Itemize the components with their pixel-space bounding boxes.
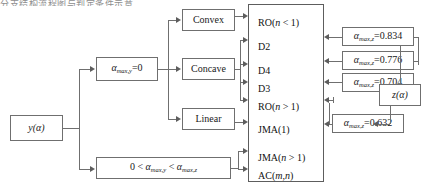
connector-range-fan-riser bbox=[238, 151, 239, 169]
arrow-concave-to-d4 bbox=[243, 61, 248, 67]
connector-alpha-zero-out bbox=[158, 69, 168, 70]
connector-z-down bbox=[390, 106, 391, 124]
connector-to-alpha-zero bbox=[79, 69, 90, 70]
arrow-0776-to-box bbox=[324, 58, 329, 64]
y-alpha-input-label: y(α) bbox=[28, 123, 44, 133]
arrow-to-alpha-zero bbox=[90, 66, 95, 72]
arrow-0632-to-box bbox=[324, 121, 329, 127]
arrow-linear-to-box bbox=[243, 119, 248, 125]
z-alpha-node: z(α) bbox=[379, 84, 421, 106]
flowchart-figure: 分支结构流程图与判定条件示意 y(α) αmax,y=0 Convex Conc… bbox=[0, 0, 427, 186]
arrow-range-to-ac bbox=[243, 166, 248, 172]
alpha-value-node-0776-label: αmax,z=0.776 bbox=[354, 55, 402, 67]
condition-alpha-max-y-zero-label: αmax,y=0 bbox=[111, 63, 142, 75]
shape-node-convex-label: Convex bbox=[193, 15, 224, 25]
arrow-z-to-0632 bbox=[373, 121, 378, 127]
connector-z-down-to-0632 bbox=[378, 124, 390, 125]
classification-entry-ac-m-n: AC(m,n) bbox=[258, 171, 293, 181]
shape-node-linear-label: Linear bbox=[195, 114, 221, 124]
connector-to-convex bbox=[168, 20, 176, 21]
arrow-concave-to-ro-gt bbox=[243, 97, 248, 103]
arrow-concave-to-d3 bbox=[243, 79, 248, 85]
arrow-to-convex bbox=[176, 17, 181, 23]
connector-0776-to-box bbox=[329, 61, 342, 62]
classification-entry-d3: D3 bbox=[258, 84, 270, 94]
connector-0632-riser bbox=[329, 103, 330, 125]
connector-to-alpha-range bbox=[79, 169, 90, 170]
connector-0834-to-box bbox=[329, 37, 342, 38]
classification-entry-jma-n-gt-1: JMA(n > 1) bbox=[258, 153, 305, 163]
arrow-0834-to-box bbox=[324, 34, 329, 40]
arrow-range-to-jma-n bbox=[243, 148, 248, 154]
connector-to-concave bbox=[168, 69, 176, 70]
shape-node-concave: Concave bbox=[182, 58, 235, 80]
connector-concave-fan-riser bbox=[240, 40, 241, 100]
alpha-value-node-0834-label: αmax,z=0.834 bbox=[354, 31, 402, 43]
connector-linear-to-box bbox=[235, 122, 243, 123]
connector-y-stem bbox=[63, 128, 79, 129]
arrow-0704-to-box bbox=[324, 79, 329, 85]
arrow-concave-to-d2 bbox=[243, 37, 248, 43]
connector-to-linear bbox=[168, 119, 176, 120]
clipped-header-text: 分支结构流程图与判定条件示意 bbox=[0, 0, 260, 6]
arrow-to-alpha-range bbox=[90, 166, 95, 172]
classification-entry-jma-1: JMA(1) bbox=[258, 125, 290, 135]
alpha-value-node-0834: αmax,z=0.834 bbox=[342, 27, 414, 46]
connector-y-riser bbox=[79, 69, 80, 169]
connector-z-to-chain-riser bbox=[400, 46, 401, 84]
connector-range-out bbox=[231, 168, 238, 169]
shape-node-concave-label: Concave bbox=[191, 64, 226, 74]
alpha-value-node-0632: αmax,z=0.632 bbox=[332, 114, 404, 133]
classification-entry-ro-n-lt-1: RO(n < 1) bbox=[258, 18, 299, 28]
z-alpha-node-label: z(α) bbox=[392, 90, 408, 100]
connector-z-left-drop bbox=[418, 37, 419, 65]
classification-entry-ro-n-gt-1: RO(n > 1) bbox=[258, 102, 299, 112]
connector-spine-to-ro-gt bbox=[329, 100, 334, 101]
condition-alpha-max-y-zero: αmax,y=0 bbox=[96, 57, 158, 81]
classification-results-box: RO(n < 1) D2 D4 D3 RO(n > 1) JMA(1) JMA(… bbox=[248, 4, 324, 182]
arrow-to-linear bbox=[176, 116, 181, 122]
shape-node-linear: Linear bbox=[182, 108, 235, 130]
classification-entry-d4: D4 bbox=[258, 66, 270, 76]
arrow-convex-to-box bbox=[243, 13, 248, 19]
condition-alpha-range-label: 0 < αmax,y < αmax,z bbox=[130, 162, 197, 174]
condition-alpha-range: 0 < αmax,y < αmax,z bbox=[96, 157, 231, 179]
connector-0704-to-box bbox=[329, 82, 342, 83]
connector-z-to-0776 bbox=[414, 61, 418, 62]
alpha-value-node-0776: αmax,z=0.776 bbox=[342, 51, 414, 70]
shape-node-convex: Convex bbox=[182, 9, 235, 31]
classification-entry-d2: D2 bbox=[258, 42, 270, 52]
y-alpha-input: y(α) bbox=[10, 115, 63, 141]
connector-convex-to-box bbox=[235, 16, 243, 17]
arrow-to-concave bbox=[176, 66, 181, 72]
connector-z-to-0834 bbox=[414, 37, 418, 38]
